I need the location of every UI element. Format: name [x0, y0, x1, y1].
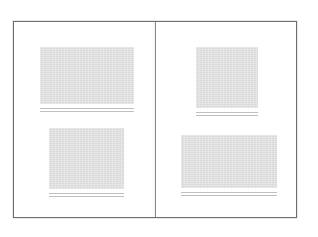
- caption-rule-line: [196, 112, 258, 113]
- figure-bottom-left[interactable]: [49, 128, 124, 189]
- figure-bottom-right-plate: [181, 135, 277, 188]
- caption-rule-line: [181, 195, 277, 196]
- figure-top-right[interactable]: [196, 47, 258, 108]
- figure-bottom-left-caption: [49, 193, 124, 197]
- caption-rule-line: [40, 111, 134, 112]
- caption-rule-line: [196, 115, 258, 116]
- figure-top-left[interactable]: [40, 47, 134, 104]
- figure-top-left-plate: [40, 47, 134, 104]
- right-page[interactable]: [156, 22, 296, 217]
- figure-bottom-right-caption: [181, 192, 277, 196]
- left-page[interactable]: [14, 22, 156, 217]
- caption-rule-line: [49, 193, 124, 194]
- caption-rule-line: [40, 108, 134, 109]
- figure-top-right-caption: [196, 112, 258, 116]
- figure-top-left-caption: [40, 108, 134, 112]
- figure-bottom-right[interactable]: [181, 135, 277, 188]
- book-spread: [13, 21, 297, 218]
- caption-rule-line: [49, 196, 124, 197]
- gutter-shadow: [152, 22, 155, 217]
- figure-bottom-left-plate: [49, 128, 124, 189]
- document-viewport: [0, 0, 318, 237]
- figure-top-right-plate: [196, 47, 258, 108]
- caption-rule-line: [181, 192, 277, 193]
